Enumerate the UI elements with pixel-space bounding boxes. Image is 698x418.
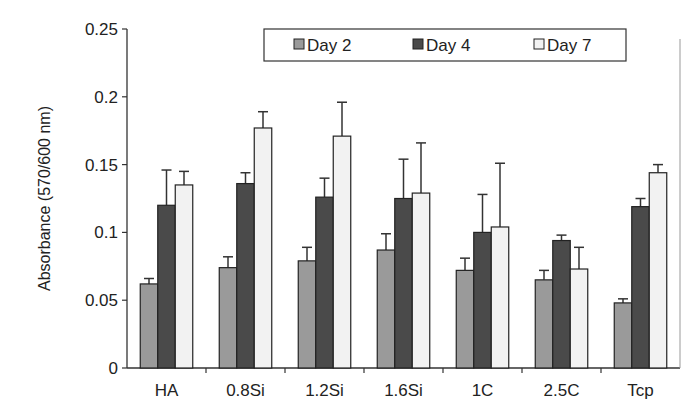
bar-day-4 (316, 197, 334, 368)
y-tick-label: 0.15 (85, 156, 118, 175)
bar-day-4 (158, 205, 176, 368)
bar-day-7 (570, 269, 588, 368)
bar-day-7 (333, 136, 351, 368)
legend-swatch (413, 39, 423, 49)
legend-label: Day 2 (307, 36, 351, 55)
legend-swatch (534, 39, 544, 49)
bar-day-2 (456, 270, 474, 368)
bar-day-2 (140, 284, 158, 368)
bar-day-7 (649, 173, 667, 368)
bar-day-4 (237, 184, 255, 368)
bar-day-4 (395, 199, 413, 369)
y-axis-label: Absorbance (570/600 nm) (36, 106, 53, 291)
x-tick-label: 1.6Si (384, 381, 423, 400)
legend-swatch (294, 39, 304, 49)
bar-day-7 (491, 227, 509, 368)
bar-chart: 00.050.10.150.20.25Absorbance (570/600 n… (0, 0, 698, 418)
bar-day-2 (219, 268, 237, 368)
x-tick-label: 0.8Si (226, 381, 265, 400)
x-tick-label: 1C (472, 381, 494, 400)
x-tick-label: 1.2Si (305, 381, 344, 400)
bar-day-7 (254, 128, 272, 368)
y-tick-label: 0.25 (85, 20, 118, 39)
x-tick-label: HA (155, 381, 179, 400)
x-tick-label: Tcp (627, 381, 653, 400)
bar-day-2 (298, 261, 316, 368)
bar-day-7 (412, 193, 430, 368)
bar-day-4 (632, 207, 650, 368)
x-tick-label: 2.5C (544, 381, 580, 400)
y-tick-label: 0 (109, 359, 118, 378)
bar-day-4 (474, 232, 492, 368)
legend-label: Day 7 (547, 36, 591, 55)
bar-day-2 (614, 303, 632, 368)
legend-label: Day 4 (426, 36, 470, 55)
bar-day-7 (175, 185, 193, 368)
bar-day-4 (553, 241, 571, 368)
y-tick-label: 0.2 (94, 88, 118, 107)
y-tick-label: 0.1 (94, 223, 118, 242)
y-tick-label: 0.05 (85, 291, 118, 310)
bar-day-2 (535, 280, 553, 368)
bar-day-2 (377, 250, 395, 368)
